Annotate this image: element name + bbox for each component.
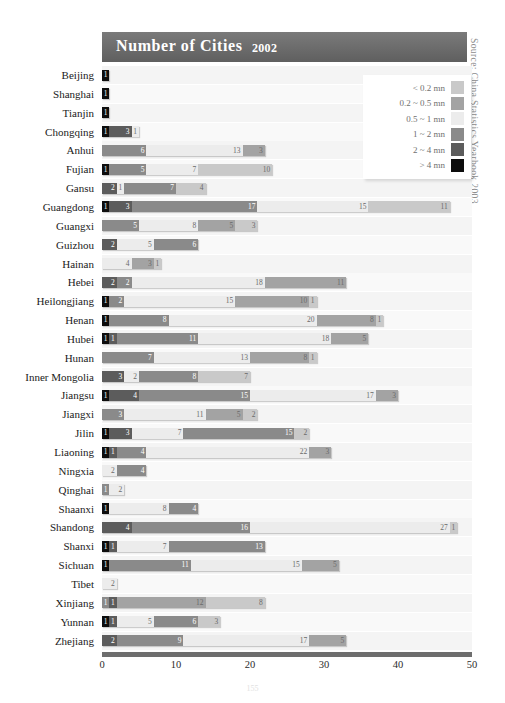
bar-segment: 7 (132, 428, 184, 439)
segment-value: 3 (259, 147, 265, 155)
bar-segment: 10 (198, 164, 272, 175)
stacked-bar: 3287 (102, 371, 250, 382)
segment-value: 3 (252, 222, 258, 230)
bar-segment: 1 (102, 428, 109, 439)
segment-value: 15 (285, 429, 295, 437)
category-label: Shandong (0, 521, 94, 533)
bar-segment: 1 (102, 164, 109, 175)
segment-value: 15 (292, 561, 302, 569)
segment-value: 11 (441, 203, 450, 211)
bar-segment: 13 (154, 352, 250, 363)
bar-segment: 1 (102, 107, 109, 118)
bar-segment: 1 (102, 597, 109, 608)
bar-segment: 11 (117, 333, 198, 344)
bar-segment: 4 (102, 522, 132, 533)
stacked-bar: 431 (102, 258, 161, 269)
segment-value: 17 (300, 637, 310, 645)
bar-segment: 3 (235, 220, 257, 231)
stacked-bar: 221811 (102, 277, 346, 288)
bar-segment: 5 (331, 333, 368, 344)
segment-value: 1 (104, 71, 110, 79)
bar-segment: 8 (139, 220, 198, 231)
segment-value: 15 (240, 392, 250, 400)
bar-segment: 1 (102, 126, 109, 137)
bar-segment: 18 (198, 333, 331, 344)
bar-segment: 15 (139, 390, 250, 401)
segment-value: 7 (244, 373, 250, 381)
bar-segment: 1 (376, 315, 383, 326)
bar-segment: 5 (102, 220, 139, 231)
bar-segment: 3 (102, 409, 124, 420)
stacked-bar: 114223 (102, 447, 331, 458)
legend-label: 1 ~ 2 mn (413, 129, 445, 139)
bar-segment: 2 (102, 578, 117, 589)
x-axis (102, 652, 472, 657)
bar-segment: 1 (102, 296, 109, 307)
bar-segment: 3 (109, 201, 131, 212)
legend-label: 0.2 ~ 0.5 mn (399, 98, 445, 108)
stacked-bar: 29175 (102, 635, 346, 646)
bar-segment: 4 (117, 465, 147, 476)
bar-segment: 1 (102, 70, 109, 81)
segment-value: 13 (240, 354, 250, 362)
bar-segment: 15 (183, 428, 294, 439)
bar-segment: 1 (102, 447, 109, 458)
x-axis-tick: 30 (319, 659, 330, 670)
bar-segment: 6 (154, 616, 198, 627)
x-axis-tick: 20 (245, 659, 256, 670)
category-label: Gansu (0, 182, 94, 194)
bar-segment: 15 (257, 201, 368, 212)
bar-segment: 3 (102, 371, 124, 382)
bar-segment: 5 (198, 220, 235, 231)
category-label: Guangxi (0, 220, 94, 232)
segment-value: 27 (440, 524, 450, 532)
bar-segment: 1 (102, 333, 109, 344)
bar-segment: 4 (102, 258, 132, 269)
segment-value: 1 (155, 260, 161, 268)
category-label: Chongqing (0, 126, 94, 138)
bar-segment: 7 (102, 352, 154, 363)
bar-segment: 1 (102, 390, 109, 401)
segment-value: 15 (359, 203, 369, 211)
row-band (102, 462, 472, 480)
bar-segment: 13 (169, 541, 265, 552)
bar-segment: 11 (109, 560, 190, 571)
segment-value: 1 (377, 316, 383, 324)
bar-segment: 8 (206, 597, 265, 608)
x-axis-tick: 40 (393, 659, 404, 670)
bar-segment: 3 (198, 616, 220, 627)
bar-segment: 7 (198, 371, 250, 382)
bar-segment: 1 (109, 541, 116, 552)
page-number: 155 (0, 684, 505, 693)
segment-value: 11 (337, 279, 346, 287)
legend-swatch (451, 143, 464, 156)
bar-segment: 7 (124, 183, 176, 194)
bar-segment: 5 (206, 409, 243, 420)
bar-segment: 2 (109, 484, 124, 495)
bar-segment: 2 (124, 371, 139, 382)
bar-segment: 2 (102, 465, 117, 476)
stacked-bar: 24 (102, 465, 146, 476)
bar-segment: 5 (309, 635, 346, 646)
bar-segment: 1 (102, 201, 109, 212)
stacked-bar: 12 (102, 484, 124, 495)
bar-segment: 18 (132, 277, 265, 288)
legend-label: > 4 mn (419, 160, 445, 170)
category-label: Guangdong (0, 201, 94, 213)
category-label: Beijing (0, 69, 94, 81)
stacked-bar: 5853 (102, 220, 257, 231)
bar-segment: 1 (309, 352, 316, 363)
segment-value: 10 (300, 297, 310, 305)
stacked-bar: 2174 (102, 183, 206, 194)
bar-segment: 11 (368, 201, 449, 212)
bar-segment: 4 (117, 447, 147, 458)
bar-segment: 1 (154, 258, 161, 269)
category-label: Henan (0, 314, 94, 326)
bar-segment: 11 (124, 409, 205, 420)
chart-page: Number of Cities 2002 Source: China Stat… (0, 0, 505, 703)
segment-value: 11 (182, 561, 191, 569)
segment-value: 1 (451, 524, 457, 532)
stacked-bar: 6133 (102, 145, 265, 156)
segment-value: 2 (303, 429, 309, 437)
x-axis-tick: 10 (171, 659, 182, 670)
